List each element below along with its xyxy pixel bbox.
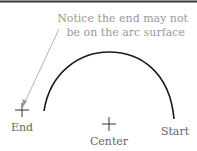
- leader-line: [24, 29, 59, 104]
- end-marker-icon: [15, 103, 29, 117]
- center-marker-icon: [102, 117, 116, 131]
- annotation-line-1: Notice the end may not: [57, 12, 188, 25]
- center-label: Center: [90, 135, 129, 148]
- leader-arrowhead-icon: [23, 99, 28, 107]
- start-label: Start: [161, 125, 190, 138]
- arc: [44, 52, 174, 119]
- annotation-line-2: be on the arc surface: [66, 26, 185, 39]
- end-label: End: [11, 121, 33, 134]
- arc-diagram: Notice the end may not be on the arc sur…: [0, 0, 197, 151]
